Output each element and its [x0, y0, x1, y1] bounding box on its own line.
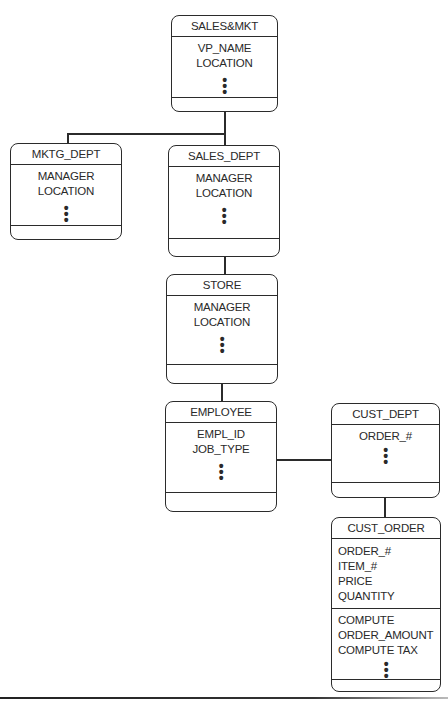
operations-section	[11, 225, 121, 239]
attribute: LOCATION	[172, 56, 277, 71]
connector-salesdept-store	[224, 256, 226, 274]
attribute: LOCATION	[167, 315, 277, 330]
ellipsis-icon: •••	[338, 658, 440, 679]
attribute: LOCATION	[169, 186, 279, 201]
method: ORDER_AMOUNT	[338, 628, 440, 643]
ellipsis-icon: •••	[166, 457, 276, 481]
class-name: CUST_ORDER	[332, 518, 440, 539]
connector-level2-horizontal	[67, 133, 225, 135]
operations-section	[172, 97, 277, 111]
attribute: MANAGER	[11, 169, 121, 184]
method: COMPUTE TAX	[338, 643, 440, 658]
method-list: COMPUTE ORDER_AMOUNT COMPUTE TAX •••	[332, 608, 440, 679]
ellipsis-icon: •••	[172, 71, 277, 95]
ellipsis-icon: •••	[11, 199, 121, 223]
attribute-list: ORDER_# •••	[332, 425, 439, 482]
page-bottom-rule	[0, 697, 448, 699]
attribute-list: VP_NAME LOCATION •••	[172, 37, 277, 97]
attribute-list: MANAGER LOCATION •••	[11, 165, 121, 225]
attribute: MANAGER	[167, 300, 277, 315]
attribute: JOB_TYPE	[166, 442, 276, 457]
connector-salesmkt-down	[224, 111, 226, 133]
class-box-sales-dept[interactable]: SALES_DEPT MANAGER LOCATION •••	[168, 145, 280, 257]
class-box-employee[interactable]: EMPLOYEE EMPL_ID JOB_TYPE •••	[165, 401, 277, 512]
connector-to-mktg-dept	[67, 133, 69, 143]
attribute: EMPL_ID	[166, 427, 276, 442]
attribute-list: MANAGER LOCATION •••	[169, 167, 279, 238]
connector-employee-custdept	[276, 459, 332, 461]
operations-section	[332, 482, 439, 497]
class-name: STORE	[167, 275, 277, 296]
ellipsis-icon: •••	[169, 201, 279, 225]
attribute: VP_NAME	[172, 41, 277, 56]
attribute-list: ORDER_# ITEM_# PRICE QUANTITY	[332, 539, 440, 608]
attribute-list: EMPL_ID JOB_TYPE •••	[166, 423, 276, 492]
connector-store-employee	[221, 383, 223, 401]
attribute-list: MANAGER LOCATION •••	[167, 296, 277, 364]
attribute: QUANTITY	[338, 589, 440, 604]
class-name: SALES&MKT	[172, 16, 277, 37]
class-name: MKTG_DEPT	[11, 144, 121, 165]
operations-section	[332, 679, 440, 691]
class-box-cust-order[interactable]: CUST_ORDER ORDER_# ITEM_# PRICE QUANTITY…	[331, 517, 441, 692]
connector-to-sales-dept	[224, 133, 226, 145]
connector-custdept-custorder	[384, 497, 386, 517]
ellipsis-icon: •••	[167, 330, 277, 354]
class-box-store[interactable]: STORE MANAGER LOCATION •••	[166, 274, 278, 384]
attribute: LOCATION	[11, 184, 121, 199]
operations-section	[169, 238, 279, 256]
class-box-cust-dept[interactable]: CUST_DEPT ORDER_# •••	[331, 403, 440, 498]
attribute: ITEM_#	[338, 559, 440, 574]
operations-section	[166, 492, 276, 511]
operations-section	[167, 364, 277, 383]
class-box-sales-mkt[interactable]: SALES&MKT VP_NAME LOCATION •••	[171, 15, 278, 112]
ellipsis-icon: •••	[332, 444, 439, 465]
class-box-mktg-dept[interactable]: MKTG_DEPT MANAGER LOCATION •••	[10, 143, 122, 240]
class-name: SALES_DEPT	[169, 146, 279, 167]
attribute: MANAGER	[169, 171, 279, 186]
class-name: EMPLOYEE	[166, 402, 276, 423]
class-name: CUST_DEPT	[332, 404, 439, 425]
attribute: PRICE	[338, 574, 440, 589]
attribute: ORDER_#	[338, 544, 440, 559]
method: COMPUTE	[338, 613, 440, 628]
